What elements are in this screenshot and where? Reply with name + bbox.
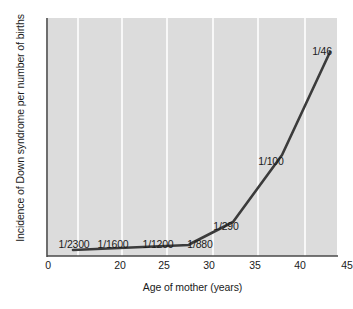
annotation-1-1200: 1/1200 bbox=[143, 238, 174, 250]
y-axis-title: Incidence of Down syndrome per number of… bbox=[14, 3, 26, 253]
annotation-1-880: 1/880 bbox=[187, 238, 212, 250]
x-tick-label-25: 25 bbox=[158, 259, 169, 271]
x-tick-label-30: 30 bbox=[203, 259, 214, 271]
annotation-1-46: 1/46 bbox=[312, 45, 332, 57]
x-tick-label-40: 40 bbox=[294, 259, 305, 271]
annotation-1-1600: 1/1600 bbox=[98, 238, 129, 250]
x-tick-label-20: 20 bbox=[114, 259, 125, 271]
plot-background bbox=[48, 18, 337, 256]
annotation-1-100: 1/100 bbox=[258, 155, 283, 167]
x-tick-label-35: 35 bbox=[249, 259, 260, 271]
x-tick-label-45: 45 bbox=[341, 259, 352, 271]
x-tick-label-0: 0 bbox=[45, 259, 51, 271]
x-axis-title: Age of mother (years) bbox=[48, 281, 337, 293]
plot-svg bbox=[48, 18, 337, 256]
annotation-1-2300: 1/2300 bbox=[59, 238, 90, 250]
plot-area bbox=[48, 18, 337, 256]
annotation-1-290: 1/290 bbox=[213, 220, 238, 232]
